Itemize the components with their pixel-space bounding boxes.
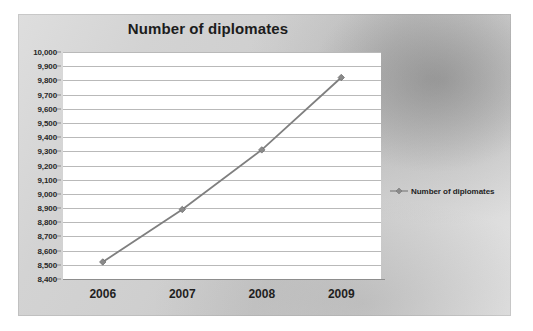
legend-marker-icon <box>390 186 408 196</box>
y-axis-tick-label: 8,700 <box>37 232 57 241</box>
y-axis-tick-mark <box>57 208 61 209</box>
y-axis-tick-mark <box>57 165 61 166</box>
y-axis-tick-mark <box>57 279 61 280</box>
chart-figure: Number of diplomates 10,0009,9009,8009,7… <box>18 14 511 316</box>
y-axis-tick-label: 9,800 <box>37 76 57 85</box>
legend: Number of diplomates <box>390 186 494 196</box>
y-axis-tick-label: 8,400 <box>37 275 57 284</box>
x-axis-tick-label: 2007 <box>169 287 196 301</box>
y-axis-tick-mark <box>57 108 61 109</box>
legend-label: Number of diplomates <box>411 187 494 196</box>
y-axis-tick-label: 9,400 <box>37 133 57 142</box>
chart-title: Number of diplomates <box>18 20 398 37</box>
series-line <box>103 78 342 262</box>
y-axis-tick-label: 9,900 <box>37 62 57 71</box>
y-axis-tick-label: 9,300 <box>37 147 57 156</box>
y-axis: 10,0009,9009,8009,7009,6009,5009,4009,30… <box>18 52 61 279</box>
y-axis-tick-mark <box>57 222 61 223</box>
y-axis-tick-mark <box>57 193 61 194</box>
y-axis-tick-mark <box>57 264 61 265</box>
plot-area <box>63 52 381 279</box>
y-axis-tick-mark <box>57 137 61 138</box>
y-axis-tick-label: 9,100 <box>37 175 57 184</box>
x-axis-tick-label: 2008 <box>248 287 275 301</box>
line-series <box>63 52 381 279</box>
y-axis-tick-mark <box>57 250 61 251</box>
scanned-page: Number of diplomates 10,0009,9009,8009,7… <box>0 0 533 331</box>
x-axis-line <box>63 279 385 280</box>
y-axis-tick-label: 9,200 <box>37 161 57 170</box>
x-axis-tick-label: 2006 <box>89 287 116 301</box>
y-axis-tick-label: 9,000 <box>37 189 57 198</box>
x-axis-tick-label: 2009 <box>328 287 355 301</box>
y-axis-tick-mark <box>57 80 61 81</box>
y-axis-tick-label: 9,600 <box>37 104 57 113</box>
x-axis: 2006200720082009 <box>63 282 381 306</box>
y-axis-tick-mark <box>57 94 61 95</box>
y-axis-tick-label: 10,000 <box>33 48 57 57</box>
y-axis-tick-mark <box>57 179 61 180</box>
y-axis-tick-label: 8,500 <box>37 260 57 269</box>
y-axis-tick-mark <box>57 236 61 237</box>
y-axis-tick-mark <box>57 122 61 123</box>
y-axis-tick-label: 8,800 <box>37 218 57 227</box>
y-axis-tick-mark <box>57 66 61 67</box>
y-axis-tick-label: 9,500 <box>37 118 57 127</box>
y-axis-tick-mark <box>57 52 61 53</box>
y-axis-tick-label: 8,900 <box>37 204 57 213</box>
y-axis-tick-mark <box>57 151 61 152</box>
y-axis-tick-label: 9,700 <box>37 90 57 99</box>
y-axis-tick-label: 8,600 <box>37 246 57 255</box>
